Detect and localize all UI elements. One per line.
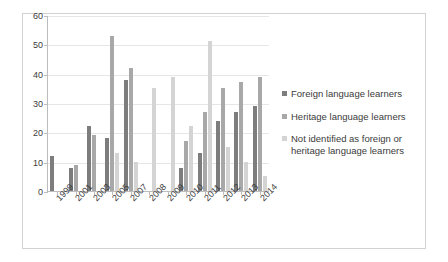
- legend-item[interactable]: Foreign language learners: [282, 88, 432, 100]
- bar: [258, 77, 262, 191]
- bar: [234, 112, 238, 191]
- bar-group: [140, 16, 158, 191]
- x-axis-tick: 2013: [232, 194, 251, 234]
- bar-group: [85, 16, 103, 191]
- bar-group: [103, 16, 121, 191]
- bar: [92, 135, 96, 191]
- y-axis-tick-label: 10: [33, 158, 43, 167]
- bar: [184, 141, 188, 191]
- x-axis-tick: 2011: [195, 194, 214, 234]
- chart-figure: 0102030405060 19992001200320052007200820…: [0, 0, 448, 262]
- x-axis-tick: 2007: [121, 194, 140, 234]
- y-axis-tick-mark: [44, 192, 48, 193]
- legend-label: Not identified as foreign or heritage la…: [291, 133, 432, 156]
- bar: [208, 41, 212, 191]
- x-axis-tick: 2005: [103, 194, 122, 234]
- x-axis-tick: 2014: [251, 194, 270, 234]
- bar: [189, 126, 193, 191]
- bar: [253, 106, 257, 191]
- y-axis-tick-label: 30: [33, 100, 43, 109]
- bar: [152, 88, 156, 191]
- bar-group: [66, 16, 84, 191]
- legend-label: Foreign language learners: [291, 88, 402, 100]
- bar: [226, 147, 230, 191]
- bar: [216, 121, 220, 191]
- bar-group: [177, 16, 195, 191]
- x-axis-tick: 2009: [158, 194, 177, 234]
- legend-swatch-icon: [282, 136, 287, 141]
- y-axis-tick-label: 0: [38, 188, 43, 197]
- legend-item[interactable]: Not identified as foreign or heritage la…: [282, 133, 432, 156]
- x-axis-tick: 2012: [214, 194, 233, 234]
- bar-group: [195, 16, 213, 191]
- x-axis-tick: 2001: [66, 194, 85, 234]
- y-axis-tick-label: 20: [33, 129, 43, 138]
- legend-label: Heritage language learners: [291, 111, 406, 123]
- bar-group: [214, 16, 232, 191]
- bar-group: [232, 16, 250, 191]
- y-axis-tick-label: 60: [33, 12, 43, 21]
- x-axis-tick: 1999: [47, 194, 66, 234]
- y-axis-tick-label: 50: [33, 41, 43, 50]
- bar: [50, 156, 54, 191]
- bar-group: [251, 16, 269, 191]
- y-axis: 0102030405060: [24, 16, 46, 192]
- chart-legend: Foreign language learnersHeritage langua…: [282, 88, 432, 167]
- x-axis-tick: 2010: [177, 194, 196, 234]
- bar: [203, 112, 207, 191]
- bar: [171, 77, 175, 191]
- y-axis-tick-label: 40: [33, 70, 43, 79]
- bar-group: [159, 16, 177, 191]
- plot-area-wrapper: 0102030405060 19992001200320052007200820…: [24, 16, 274, 212]
- legend-swatch-icon: [282, 91, 287, 96]
- bar: [129, 68, 133, 191]
- x-axis-tick: 2008: [140, 194, 159, 234]
- bar: [239, 82, 243, 191]
- bar-group: [48, 16, 66, 191]
- bar-groups: [48, 16, 269, 191]
- legend-swatch-icon: [282, 114, 287, 119]
- plot-area: [47, 16, 269, 192]
- x-axis-tick: 2003: [84, 194, 103, 234]
- legend-item[interactable]: Heritage language learners: [282, 111, 432, 123]
- bar: [221, 88, 225, 191]
- x-axis: 1999200120032005200720082009201020112012…: [47, 194, 269, 234]
- bar: [124, 80, 128, 191]
- bar: [110, 36, 114, 191]
- bar-group: [122, 16, 140, 191]
